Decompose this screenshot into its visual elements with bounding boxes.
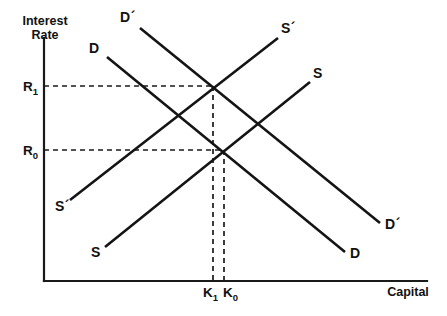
y-tick-r1: R1 — [23, 79, 39, 97]
y-tick-r1-base: R — [23, 79, 33, 94]
supply-curve-s — [105, 82, 310, 247]
curve-label-s-prime-bottom-mark: ´ — [65, 198, 70, 214]
y-tick-r1-subscript: 1 — [33, 86, 39, 97]
curve-label-d-prime-bottom: D´ — [385, 216, 401, 232]
x-axis-title: Capital — [387, 285, 429, 299]
curve-label-d-prime-bottom-base: D — [385, 216, 395, 232]
curve-label-s-prime-top: S´ — [281, 20, 296, 36]
curve-label-s-prime-bottom: S´ — [55, 198, 70, 214]
curve-label-d-bottom: D — [350, 245, 360, 261]
y-axis-title-line2: Rate — [31, 28, 58, 42]
demand-curve-d — [107, 57, 345, 252]
curve-label-d-prime-top-mark: ´ — [131, 9, 136, 25]
x-tick-k1-subscript: 1 — [213, 292, 219, 303]
y-tick-r0-subscript: 0 — [33, 150, 38, 161]
y-axis-title-line1: Interest — [22, 14, 68, 28]
curve-label-d-prime-top-base: D — [120, 9, 130, 25]
curve-label-s-top: S — [313, 65, 322, 81]
curve-label-s-prime-top-mark: ´ — [291, 20, 296, 36]
x-tick-k0-base: K — [223, 285, 233, 300]
curve-label-d-top: D — [89, 40, 99, 56]
curve-label-d-prime-top: D´ — [120, 9, 136, 25]
x-tick-k1: K1 — [203, 285, 219, 303]
y-tick-r0-base: R — [23, 143, 33, 158]
curve-label-s-bottom: S — [91, 244, 100, 260]
capital-market-diagram: Interest Rate Capital R1 R0 K1 K0 D´ D S… — [0, 0, 447, 316]
demand-curve-d-prime — [140, 28, 380, 223]
x-tick-k0-subscript: 0 — [233, 292, 238, 303]
x-tick-k1-base: K — [203, 285, 213, 300]
x-tick-k0: K0 — [223, 285, 238, 303]
curve-label-d-prime-bottom-mark: ´ — [396, 216, 401, 232]
curve-label-s-prime-bottom-base: S — [55, 198, 64, 214]
curve-label-s-prime-top-base: S — [281, 20, 290, 36]
y-tick-r0: R0 — [23, 143, 38, 161]
diagram-canvas: Interest Rate Capital R1 R0 K1 K0 D´ D S… — [0, 0, 447, 316]
supply-curve-s-prime — [70, 38, 278, 200]
